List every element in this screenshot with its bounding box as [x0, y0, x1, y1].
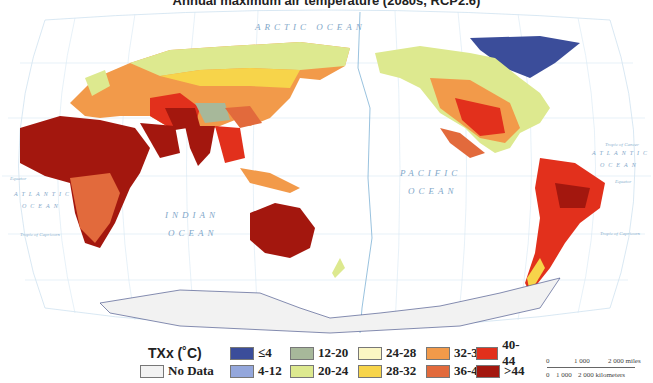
legend-item-20-24: 20-24: [290, 364, 348, 378]
scale-miles-0: 0: [546, 357, 550, 365]
legend-label: 24-28: [386, 345, 416, 361]
label-pacific-ocean: OCEAN: [408, 186, 458, 196]
legend: TXx (˚C) ≤4 4-12 12-20 20-24 24-28 28-32…: [140, 343, 530, 383]
legend-item-24-28: 24-28: [358, 346, 416, 360]
swatch: [230, 365, 254, 378]
legend-item-4-12: 4-12: [230, 364, 282, 378]
swatch: [358, 347, 382, 360]
label-tropic-cancer: Tropic of Cancer: [605, 142, 639, 147]
label-indian: INDIAN: [164, 210, 219, 220]
scale-km-0: 0: [546, 371, 550, 379]
label-pacific: PACIFIC: [399, 168, 461, 178]
world-map: ARCTIC OCEAN PACIFIC OCEAN INDIAN OCEAN …: [0, 8, 653, 338]
label-atlantic-east-ocean: OCEAN: [22, 203, 62, 209]
swatch: [476, 347, 498, 360]
legend-item-40-44: 40-44: [476, 346, 530, 360]
label-equator: Equator: [614, 179, 631, 184]
swatch: [290, 365, 314, 378]
legend-label: 20-24: [318, 363, 348, 379]
legend-label: ≤4: [258, 345, 272, 361]
label-tropic-capricorn-west: Tropic of Capricorn: [20, 232, 61, 237]
legend-item-28-32: 28-32: [358, 364, 416, 378]
label-atlantic-west: ATLANTIC: [591, 150, 651, 156]
legend-item-12-20: 12-20: [290, 346, 348, 360]
swatch: [476, 365, 500, 378]
legend-label: No Data: [168, 363, 214, 379]
scale-miles-1000: 1 000: [574, 357, 590, 365]
swatch: [230, 347, 254, 360]
legend-item-no-data: No Data: [140, 364, 214, 378]
legend-item-gt44: >44: [476, 364, 524, 378]
swatch: [426, 347, 450, 360]
swatch: [140, 365, 164, 378]
scale-bar: 0 1 000 2 000 miles 0 1 000 2 000 kilome…: [538, 355, 653, 383]
scale-line: [547, 367, 635, 368]
label-tropic-capricorn: Tropic of Capricorn: [600, 231, 641, 236]
scale-km-1000: 1 000: [556, 371, 572, 379]
swatch: [290, 347, 314, 360]
label-arctic-ocean: ARCTIC OCEAN: [254, 22, 366, 32]
label-atlantic-east: ATLANTIC: [13, 191, 73, 197]
swatch: [426, 365, 450, 378]
map-title: Annual maximum air temperature (2080s, R…: [0, 0, 653, 8]
legend-label: 28-32: [386, 363, 416, 379]
label-equator-west: Equator: [9, 176, 26, 181]
legend-label: 4-12: [258, 363, 282, 379]
scale-miles-2000: 2 000 miles: [608, 357, 641, 365]
scale-km-2000: 2 000 kilometers: [578, 371, 625, 379]
legend-item-le4: ≤4: [230, 346, 272, 360]
label-atlantic-west-ocean: OCEAN: [600, 162, 640, 168]
legend-title: TXx (˚C): [148, 345, 202, 361]
label-indian-ocean: OCEAN: [168, 228, 218, 238]
legend-label: 12-20: [318, 345, 348, 361]
swatch: [358, 365, 382, 378]
